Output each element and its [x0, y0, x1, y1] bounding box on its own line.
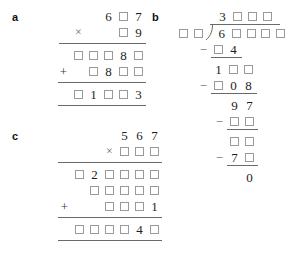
- row-quotient-b: 3: [172, 8, 288, 24]
- digit-cell: 3: [215, 8, 230, 24]
- box-cell[interactable]: [116, 24, 131, 40]
- box-cell[interactable]: [132, 166, 147, 182]
- digit-cell: 6: [214, 25, 229, 41]
- puzzle-c: 5 6 7 × 2 + 1: [28, 127, 162, 241]
- cell-pad: [87, 143, 102, 159]
- cell-pad: [102, 127, 117, 143]
- operator-slot: [57, 182, 72, 198]
- part-label-c: c: [12, 131, 18, 142]
- box-cell[interactable]: [241, 61, 256, 77]
- digit-cell: 0: [242, 169, 257, 185]
- box-cell[interactable]: [147, 166, 162, 182]
- row-multiplicand-a: 6 7: [42, 8, 146, 24]
- box-cell[interactable]: [245, 8, 260, 24]
- box-cell[interactable]: [102, 166, 117, 182]
- box-cell[interactable]: [102, 198, 117, 214]
- digit-cell: 6: [132, 127, 147, 143]
- box-cell[interactable]: [132, 182, 147, 198]
- box-cell[interactable]: [242, 133, 257, 149]
- box-cell[interactable]: [71, 47, 86, 63]
- box-cell[interactable]: [242, 149, 257, 165]
- box-cell[interactable]: [117, 166, 132, 182]
- box-cell[interactable]: [131, 47, 146, 63]
- box-cell[interactable]: [260, 8, 275, 24]
- box-cell[interactable]: [227, 133, 242, 149]
- plus-operator: +: [57, 198, 72, 214]
- cell-pad: [72, 198, 87, 214]
- box-cell[interactable]: [117, 221, 132, 237]
- box-cell[interactable]: [87, 182, 102, 198]
- box-cell[interactable]: [273, 25, 288, 41]
- minus-operator: −: [212, 113, 227, 129]
- cell-pad: [72, 182, 87, 198]
- box-cell[interactable]: [86, 47, 101, 63]
- operator-slot: [72, 127, 87, 143]
- box-cell[interactable]: [211, 41, 226, 57]
- minus-operator: −: [196, 41, 211, 57]
- digit-cell: 4: [132, 221, 147, 237]
- row-total-a: 1 3: [42, 86, 146, 102]
- digit-cell: 3: [131, 86, 146, 102]
- box-cell[interactable]: [191, 25, 206, 41]
- digit-cell: 7: [227, 149, 242, 165]
- box-cell[interactable]: [227, 113, 242, 129]
- part-label-a: a: [12, 12, 18, 23]
- box-cell[interactable]: [117, 182, 132, 198]
- cell-pad: [71, 63, 86, 79]
- box-cell[interactable]: [102, 221, 117, 237]
- puzzle-a: 6 7 × 9 8 + 8 1 3: [42, 8, 146, 106]
- cell-pad: [87, 127, 102, 143]
- division-bracket-icon: [205, 25, 214, 41]
- digit-cell: 2: [87, 166, 102, 182]
- box-cell[interactable]: [131, 63, 146, 79]
- box-cell[interactable]: [117, 198, 132, 214]
- box-cell[interactable]: [226, 61, 241, 77]
- cell-pad: [86, 24, 101, 40]
- box-cell[interactable]: [101, 47, 116, 63]
- row-total-c: 4: [28, 221, 162, 237]
- row-multiplier-c: ×: [28, 143, 162, 159]
- row-multiplicand-c: 5 6 7: [28, 127, 162, 143]
- cell-pad: [86, 8, 101, 24]
- box-cell[interactable]: [116, 63, 131, 79]
- box-cell[interactable]: [211, 77, 226, 93]
- row-bringdown-2-b: 9 7: [172, 97, 288, 113]
- digit-cell: 1: [211, 61, 226, 77]
- box-cell[interactable]: [116, 8, 131, 24]
- box-cell[interactable]: [72, 166, 87, 182]
- operator-slot: [56, 47, 71, 63]
- box-cell[interactable]: [147, 221, 162, 237]
- box-cell[interactable]: [101, 86, 116, 102]
- rule-line-bottom: [58, 105, 146, 106]
- box-cell[interactable]: [87, 221, 102, 237]
- digit-cell: 9: [131, 24, 146, 40]
- digit-cell: 5: [117, 127, 132, 143]
- row-subtract-2-b: − 0 8: [172, 77, 288, 93]
- box-cell[interactable]: [244, 25, 259, 41]
- box-cell[interactable]: [71, 86, 86, 102]
- box-cell[interactable]: [242, 113, 257, 129]
- box-cell[interactable]: [86, 63, 101, 79]
- digit-cell: 0: [226, 77, 241, 93]
- operator-slot: [57, 166, 72, 182]
- box-cell[interactable]: [259, 25, 274, 41]
- box-cell[interactable]: [132, 198, 147, 214]
- digit-cell: 4: [226, 41, 241, 57]
- multiply-operator: ×: [71, 24, 86, 40]
- box-cell[interactable]: [132, 143, 147, 159]
- box-cell[interactable]: [176, 25, 191, 41]
- row-subtract-1-b: − 4: [172, 41, 288, 57]
- row-partial-3-c: + 1: [28, 198, 162, 214]
- box-cell[interactable]: [117, 143, 132, 159]
- box-cell[interactable]: [72, 221, 87, 237]
- box-cell[interactable]: [116, 86, 131, 102]
- row-dividend-b: 6: [172, 25, 288, 41]
- box-cell[interactable]: [229, 25, 244, 41]
- cell-pad: [101, 24, 116, 40]
- box-cell[interactable]: [147, 182, 162, 198]
- row-partial-2-c: [28, 182, 162, 198]
- box-cell[interactable]: [147, 143, 162, 159]
- box-cell[interactable]: [102, 182, 117, 198]
- digit-cell: 8: [116, 47, 131, 63]
- box-cell[interactable]: [230, 8, 245, 24]
